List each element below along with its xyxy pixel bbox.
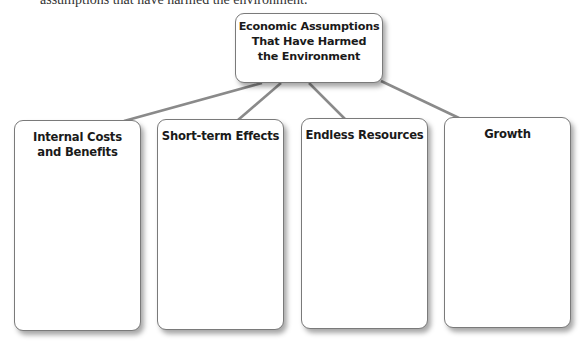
box-title-line-1: Internal Costs [15,130,140,145]
central-title-line-2: That Have Harmed [236,34,382,49]
box-title-line-1: Endless Resources [302,128,427,143]
box-title-line-2: and Benefits [15,145,140,160]
central-concept-box: Economic Assumptions That Have Harmed th… [235,13,383,83]
central-title-line-1: Economic Assumptions [236,19,382,34]
connector-4 [381,81,459,118]
central-title-line-3: the Environment [236,49,382,64]
box-short-term-effects[interactable]: Short-term Effects [157,119,284,330]
box-title-line-1: Short-term Effects [158,129,283,144]
box-endless-resources[interactable]: Endless Resources [301,118,428,329]
connector-1 [124,83,262,121]
connector-3 [309,83,345,119]
box-growth[interactable]: Growth [444,117,571,328]
box-internal-costs-and-benefits[interactable]: Internal Costs and Benefits [14,120,141,331]
box-title-line-1: Growth [445,127,570,142]
